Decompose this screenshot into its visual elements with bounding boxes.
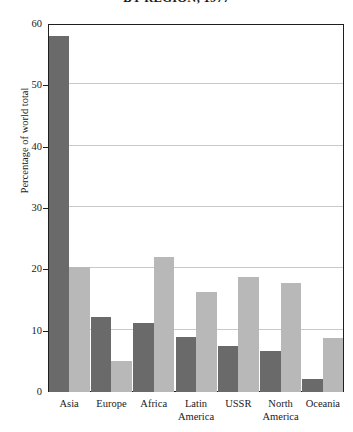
bar-group xyxy=(218,24,259,392)
x-axis-label: Oceania xyxy=(292,398,353,411)
x-axis-labels: AsiaEuropeAfricaLatinAmericaUSSRNorthAme… xyxy=(48,398,344,432)
y-tick-label-40: 40 xyxy=(2,142,42,152)
bar-group xyxy=(176,24,217,392)
y-tick-label-0: 0 xyxy=(2,387,42,397)
bar xyxy=(302,379,323,392)
bar-group xyxy=(302,24,343,392)
y-tick-label-20: 20 xyxy=(2,264,42,274)
bar-group xyxy=(260,24,301,392)
bar xyxy=(49,36,70,392)
x-axis-label-line: USSR xyxy=(225,398,251,409)
y-tick-label-30: 30 xyxy=(2,203,42,213)
x-axis-label-line: Oceania xyxy=(306,398,340,409)
bar-chart-figure: BY REGION, 1977 Percentage of world tota… xyxy=(0,0,353,432)
bar xyxy=(176,337,197,392)
x-axis-label-line: Asia xyxy=(60,398,79,409)
x-axis-label-line: Latin xyxy=(185,398,207,409)
bar-group xyxy=(133,24,174,392)
bar xyxy=(154,257,175,392)
bar xyxy=(196,292,217,392)
chart-title: BY REGION, 1977 xyxy=(0,0,353,5)
bar xyxy=(69,267,90,392)
y-tick-label-50: 50 xyxy=(2,80,42,90)
x-axis-label-line: America xyxy=(250,411,311,424)
bar xyxy=(323,338,344,392)
bar xyxy=(133,323,154,392)
bar-group xyxy=(49,24,90,392)
bar xyxy=(111,361,132,392)
x-axis-label-line: North xyxy=(268,398,293,409)
bars-layer xyxy=(48,24,344,392)
bar-group xyxy=(91,24,132,392)
bar xyxy=(238,277,259,392)
bar xyxy=(281,283,302,392)
bar xyxy=(91,317,112,392)
bar xyxy=(218,346,239,392)
y-tick-label-60: 60 xyxy=(2,19,42,29)
x-axis-label-line: Africa xyxy=(140,398,167,409)
bar xyxy=(260,351,281,392)
x-axis-label-line: Europe xyxy=(96,398,126,409)
y-tick-label-10: 10 xyxy=(2,326,42,336)
x-axis-label-line: America xyxy=(166,411,227,424)
